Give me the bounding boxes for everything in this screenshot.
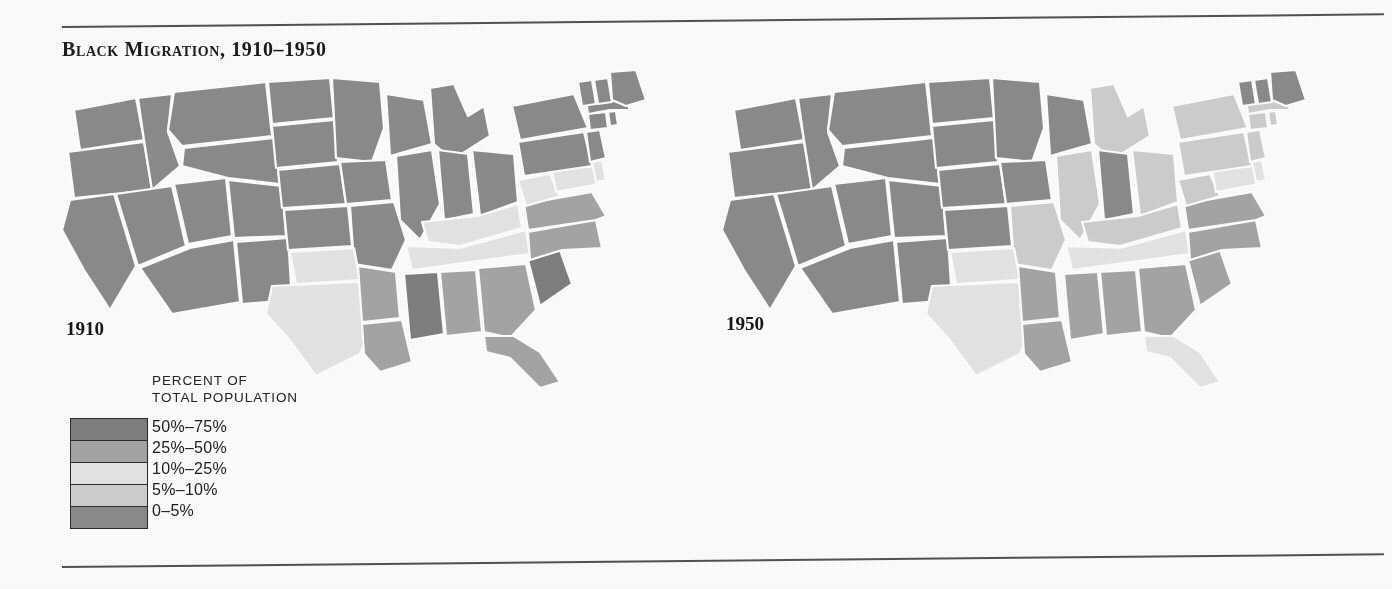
state-LA xyxy=(362,320,412,372)
state-MO xyxy=(350,202,406,270)
state-NE xyxy=(278,164,346,208)
map-panel-1950 xyxy=(700,70,1340,400)
state-WA xyxy=(734,98,804,150)
legend-swatch-50-75 xyxy=(71,419,147,441)
state-GA xyxy=(478,264,536,338)
state-VT xyxy=(1238,80,1256,106)
state-MO xyxy=(1010,202,1066,270)
legend-title-line2: TOTAL POPULATION xyxy=(152,389,298,406)
figure-container: Black Migration, 1910–1950 xyxy=(0,0,1392,589)
legend-title-line1: PERCENT OF xyxy=(152,372,298,389)
state-IN xyxy=(1098,150,1134,220)
legend-label-25-50: 25%–50% xyxy=(152,437,227,458)
state-RI xyxy=(1268,111,1278,126)
us-map-1910 xyxy=(40,70,680,400)
state-MT xyxy=(828,82,932,146)
state-CO xyxy=(888,180,946,238)
state-AR xyxy=(1018,266,1060,322)
legend-title: PERCENT OF TOTAL POPULATION xyxy=(152,372,298,406)
state-MI xyxy=(430,84,490,160)
us-map-1950 xyxy=(700,70,1340,400)
state-KS xyxy=(944,206,1012,250)
state-IN xyxy=(438,150,474,220)
legend-label-0-5: 0–5% xyxy=(152,500,227,521)
legend-swatch-25-50 xyxy=(71,441,147,463)
legend-label-10-25: 10%–25% xyxy=(152,458,227,479)
state-AL xyxy=(1100,270,1142,336)
state-AR xyxy=(358,266,400,322)
state-IA xyxy=(1000,160,1052,204)
state-FL xyxy=(1144,336,1220,388)
state-ND xyxy=(268,78,334,124)
state-ME xyxy=(610,70,646,106)
state-OK xyxy=(950,248,1020,284)
state-GA xyxy=(1138,264,1196,338)
state-NJ xyxy=(586,130,606,162)
state-ME xyxy=(1270,70,1306,106)
state-SD xyxy=(272,120,338,168)
state-MN xyxy=(992,78,1044,162)
state-KS xyxy=(284,206,352,250)
state-NH xyxy=(1254,78,1272,104)
page-title: Black Migration, 1910–1950 xyxy=(62,38,327,61)
top-rule xyxy=(62,13,1384,28)
legend-label-column: 50%–75% 25%–50% 10%–25% 5%–10% 0–5% xyxy=(152,416,227,521)
state-NJ xyxy=(1246,130,1266,162)
state-MS xyxy=(1064,272,1104,340)
legend-label-5-10: 5%–10% xyxy=(152,479,227,500)
legend-label-50-75: 50%–75% xyxy=(152,416,227,437)
state-OK xyxy=(290,248,360,284)
state-shapes-1910 xyxy=(62,70,646,388)
state-IA xyxy=(340,160,392,204)
state-CT xyxy=(588,112,608,130)
legend-swatch-column xyxy=(70,418,148,529)
legend-swatch-0-5 xyxy=(71,507,147,528)
state-CT xyxy=(1248,112,1268,130)
legend-swatch-5-10 xyxy=(71,485,147,507)
state-WI xyxy=(386,94,432,156)
state-MT xyxy=(168,82,272,146)
state-ND xyxy=(928,78,994,124)
state-WA xyxy=(74,98,144,150)
state-FL xyxy=(484,336,560,388)
year-label-1910: 1910 xyxy=(66,318,104,340)
state-SD xyxy=(932,120,998,168)
legend-swatch-10-25 xyxy=(71,463,147,485)
state-AL xyxy=(440,270,482,336)
state-shapes-1950 xyxy=(722,70,1306,388)
state-NE xyxy=(938,164,1006,208)
map-panel-1910 xyxy=(40,70,680,400)
year-label-1950: 1950 xyxy=(726,313,764,335)
state-CO xyxy=(228,180,286,238)
state-MN xyxy=(332,78,384,162)
state-MI xyxy=(1090,84,1150,160)
state-RI xyxy=(608,111,618,126)
state-LA xyxy=(1022,320,1072,372)
state-NH xyxy=(594,78,612,104)
bottom-rule xyxy=(62,553,1384,568)
state-VT xyxy=(578,80,596,106)
state-WI xyxy=(1046,94,1092,156)
state-MS xyxy=(404,272,444,340)
